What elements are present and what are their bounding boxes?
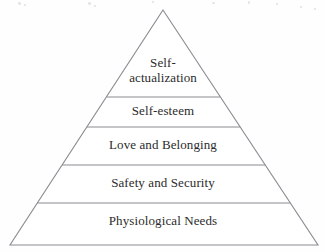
scan-speck	[152, 1, 154, 3]
pyramid-figure: Self- actualization Self-esteem Love and…	[0, 0, 326, 252]
scan-speck	[94, 5, 96, 7]
scan-speck	[314, 8, 316, 10]
pyramid-diagram	[0, 0, 326, 252]
scan-speck	[24, 4, 26, 6]
pyramid-geometry	[10, 10, 318, 245]
scan-speck	[248, 1, 250, 4]
scan-speck	[276, 3, 278, 5]
scan-speck	[212, 2, 215, 4]
scan-speck	[18, 2, 21, 5]
scan-speck	[88, 2, 91, 5]
scan-speck	[300, 6, 302, 8]
